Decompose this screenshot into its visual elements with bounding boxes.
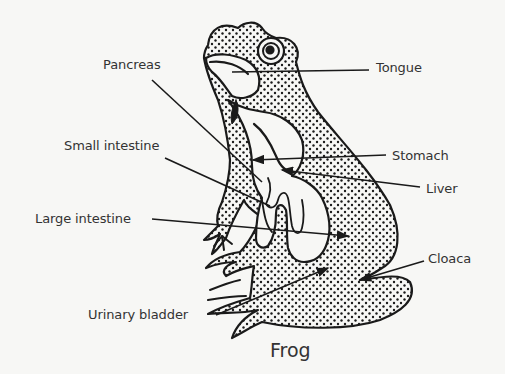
label-cloaca: Cloaca bbox=[428, 251, 471, 266]
label-small-intestine: Small intestine bbox=[64, 138, 159, 153]
label-stomach: Stomach bbox=[392, 148, 449, 163]
label-large-intestine: Large intestine bbox=[35, 211, 131, 226]
figure-caption: Frog bbox=[270, 339, 311, 361]
label-liver: Liver bbox=[426, 181, 457, 196]
label-tongue: Tongue bbox=[376, 60, 422, 75]
label-pancreas: Pancreas bbox=[103, 57, 161, 72]
label-urinary-bladder: Urinary bladder bbox=[88, 307, 188, 322]
